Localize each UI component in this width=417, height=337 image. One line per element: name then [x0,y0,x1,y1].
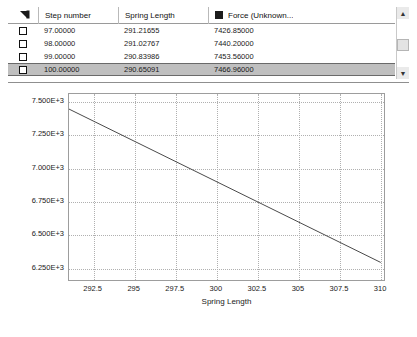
x-axis-tick-label: 302.5 [247,284,266,293]
row-checkbox[interactable] [19,53,27,61]
data-grid-body: 97.00000 291.21655 7426.85000 98.00000 2… [8,24,395,79]
row-select-cell[interactable] [8,24,38,37]
cell-step-number: 98.00000 [38,37,118,50]
column-header-spring-length-label: Spring Length [125,11,175,20]
cell-spring-length: 291.21655 [118,24,208,37]
column-header-spring-length[interactable]: Spring Length [118,7,208,24]
y-axis-tick-label: 6.500E+3 [2,229,64,238]
row-checkbox[interactable] [19,40,27,48]
column-header-step-number-label: Step number [45,11,91,20]
select-all-header-cell[interactable] [8,7,38,24]
row-select-cell[interactable] [8,63,38,76]
cell-force: 7466.96000 [208,63,395,76]
cell-force: 7440.20000 [208,37,395,50]
y-axis-tick-label: 7.000E+3 [2,163,64,172]
x-axis-tick-label: 295 [127,284,140,293]
cell-spring-length: 290.65091 [118,63,208,76]
table-row[interactable]: 99.00000 290.83986 7453.56000 [8,50,395,63]
data-grid-header-row: Step number Spring Length Force (Unknown… [8,7,395,24]
cell-force: 7453.56000 [208,50,395,63]
x-axis-tick-label: 307.5 [330,284,349,293]
force-vs-spring-length-chart: 7.500E+37.250E+37.000E+36.750E+36.500E+3… [0,88,417,337]
y-axis-tick-label: 7.500E+3 [2,96,64,105]
cell-spring-length: 290.83986 [118,50,208,63]
cell-force: 7426.85000 [208,24,395,37]
scrollbar-thumb[interactable] [397,39,409,51]
x-axis-tick-label: 300 [210,284,223,293]
data-grid-vertical-scrollbar[interactable]: ▲ ▼ [396,7,409,79]
y-axis-tick-label: 7.250E+3 [2,129,64,138]
scroll-up-button[interactable]: ▲ [397,7,409,19]
table-row[interactable]: 97.00000 291.21655 7426.85000 [8,24,395,37]
sort-corner-icon [19,10,30,21]
grid-bottom-divider [8,82,409,83]
x-axis-tick-labels: 292.5295297.5300302.5305307.5310 [68,284,385,296]
cell-step-number: 97.00000 [38,24,118,37]
column-header-force[interactable]: Force (Unknown... [208,7,395,24]
row-checkbox[interactable] [19,27,27,35]
row-select-cell[interactable] [8,50,38,63]
chevron-down-icon: ▼ [400,70,407,77]
x-axis-tick-label: 305 [292,284,305,293]
force-series-swatch-icon [215,11,223,19]
x-axis-tick-label: 292.5 [83,284,102,293]
x-axis-title: Spring Length [68,297,385,306]
data-grid-viewport: Step number Spring Length Force (Unknown… [8,7,409,79]
column-header-step-number[interactable]: Step number [38,7,118,24]
row-select-cell[interactable] [8,37,38,50]
x-axis-tick-label: 310 [374,284,387,293]
row-checkbox[interactable] [19,66,27,74]
data-grid[interactable]: Step number Spring Length Force (Unknown… [8,7,409,79]
series-line-force [69,94,384,280]
y-axis-tick-labels: 7.500E+37.250E+37.000E+36.750E+36.500E+3… [0,93,64,281]
cell-spring-length: 291.02767 [118,37,208,50]
cell-step-number: 100.00000 [38,63,118,76]
y-axis-tick-label: 6.250E+3 [2,263,64,272]
column-header-force-label: Force (Unknown... [228,11,293,20]
table-row[interactable]: 98.00000 291.02767 7440.20000 [8,37,395,50]
y-axis-tick-label: 6.750E+3 [2,196,64,205]
cell-step-number: 99.00000 [38,50,118,63]
x-axis-tick-label: 297.5 [165,284,184,293]
chevron-up-icon: ▲ [400,10,407,17]
plot-area [68,93,385,281]
table-row-selected[interactable]: 100.00000 290.65091 7466.96000 [8,63,395,76]
scroll-down-button[interactable]: ▼ [397,67,409,79]
